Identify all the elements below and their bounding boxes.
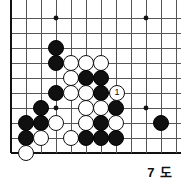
stone-black[interactable] [93, 85, 109, 101]
stone-white[interactable] [93, 100, 109, 116]
stone-black[interactable] [48, 55, 64, 71]
stone-white[interactable] [48, 115, 64, 131]
stone-white[interactable] [108, 115, 124, 131]
stone-black[interactable] [93, 70, 109, 86]
stone-black[interactable] [153, 115, 169, 131]
stone-white[interactable] [63, 55, 79, 71]
stone-white[interactable] [78, 85, 94, 101]
diagram-caption: 7 도 [147, 162, 173, 181]
stone-white[interactable] [78, 100, 94, 116]
stone-white[interactable] [63, 130, 79, 146]
stone-black[interactable] [33, 100, 49, 116]
stone-black[interactable] [93, 130, 109, 146]
stone-white[interactable] [93, 55, 109, 71]
stone-black[interactable] [78, 130, 94, 146]
stone-white[interactable] [33, 130, 49, 146]
stone-white[interactable] [63, 85, 79, 101]
stone-black[interactable] [93, 115, 109, 131]
stone-black[interactable] [48, 40, 64, 56]
stone-black[interactable] [18, 130, 34, 146]
stone-white[interactable] [63, 70, 79, 86]
stone-black[interactable] [78, 70, 94, 86]
stone-white[interactable] [18, 145, 34, 161]
stone-black[interactable] [18, 115, 34, 131]
stone-black[interactable] [33, 115, 49, 131]
stone-white-move-1[interactable]: 1 [109, 85, 125, 101]
stone-black[interactable] [108, 130, 124, 146]
stone-white[interactable] [78, 115, 94, 131]
go-diagram-figure: 1 7 도 [0, 0, 181, 183]
stone-white[interactable] [78, 55, 94, 71]
stone-move-number: 1 [110, 86, 124, 100]
stone-black[interactable] [108, 100, 124, 116]
stone-black[interactable] [48, 85, 64, 101]
go-board[interactable]: 1 [0, 0, 181, 160]
stone-layer: 1 [0, 0, 181, 160]
